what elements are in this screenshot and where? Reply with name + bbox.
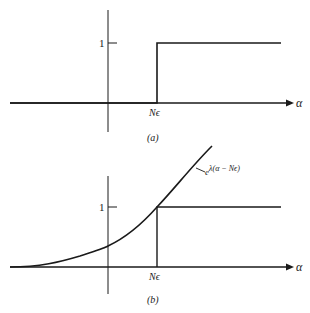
panel-b-curve-label-exponent: λ(α − Nϵ): [208, 164, 240, 173]
panel-a-y-tick-label: 1: [99, 37, 105, 49]
panel-a-x-marker-label: Nϵ: [148, 107, 161, 118]
panel-a-x-axis-label: α: [296, 96, 303, 110]
panel-b-step-curve: [157, 207, 281, 267]
panel-b-curve-label: eλ(α − Nϵ): [205, 164, 240, 177]
panel-b-curve-label-pointer: [196, 168, 205, 172]
figure: 1 Nϵ α (a) eλ(α − Nϵ) 1 Nϵ α (b): [0, 0, 310, 313]
panel-a-x-axis-arrow-icon: [286, 100, 294, 107]
panel-a-step-curve: [10, 43, 281, 103]
panel-b-x-axis-arrow-icon: [286, 264, 294, 271]
panel-b-x-axis-label: α: [296, 260, 303, 274]
panel-b-caption: (b): [147, 294, 159, 306]
panel-b-x-marker-label: Nϵ: [148, 271, 161, 282]
panel-a-caption: (a): [147, 132, 159, 144]
panel-b-y-tick-label: 1: [99, 201, 105, 213]
